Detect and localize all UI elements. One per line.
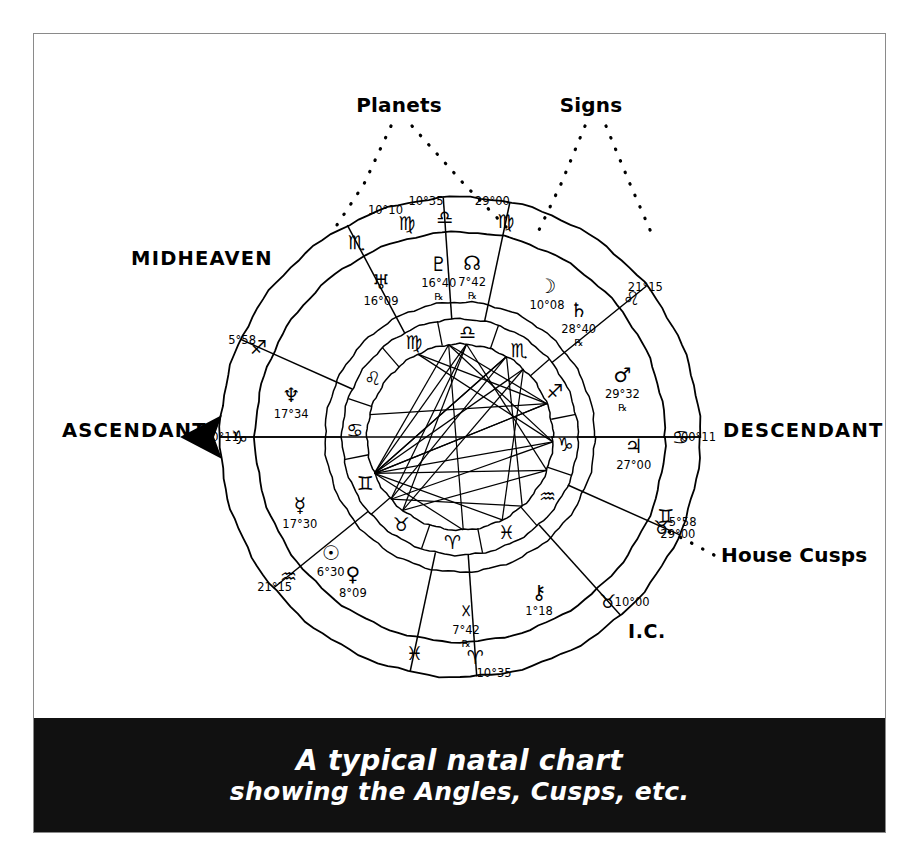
angle-label-ic: I.C. [628,620,666,642]
planet-glyph: ☊ [463,251,481,275]
planet-chiron: ⚷1°18 [525,580,553,618]
retrograde-marker: ℞ [462,638,471,649]
cusp-degree-h12: 5°58 [228,333,256,347]
cusp-sign-glyph-aries-h4: ♈ [467,646,484,668]
planet-degree: 16°40 [421,276,456,290]
planet-glyph: ♆ [282,383,300,407]
angle-label-descendant: DESCENDANT [723,419,883,442]
inner-zodiac-glyph-gemini: ♊ [357,472,374,494]
retrograde-marker: ℞ [574,337,583,348]
cusp-degree-h4: 10°35 [477,666,512,680]
planet-degree: 16°09 [363,294,398,308]
figure-panel: ♑00°11♒21°15♓♈10°35♉10°00♉29°00♋00°11♌21… [33,33,886,833]
planet-glyph: ♂ [613,363,631,387]
callout-label-house-cusps: House Cusps [721,543,867,567]
planet-glyph: ♄ [570,298,588,322]
cusp-degree-h14: 10°10 [368,203,403,217]
planet-glyph: ⚷ [532,580,547,604]
inner-zodiac-glyph-leo: ♌ [364,367,381,389]
planet-degree: 28°40 [561,322,596,336]
inner-zodiac-glyph-libra: ♎ [459,321,476,343]
retrograde-marker: ℞ [434,291,443,302]
natal-chart-svg: ♑00°11♒21°15♓♈10°35♉10°00♉29°00♋00°11♌21… [34,34,885,699]
retrograde-marker: ℞ [468,290,477,301]
planet-degree: 17°34 [274,407,309,421]
cusp-degree-h2: 21°15 [257,580,292,594]
caption-line-2: showing the Angles, Cusps, etc. [230,777,690,807]
planet-degree: 27°00 [616,458,651,472]
cusp-degree-h13: 5°58 [669,515,697,529]
planet-degree: 17°30 [282,517,317,531]
cusp-degree-h10: 10°35 [408,194,443,208]
planet-glyphs: ♇16°40℞☊7°42℞☽10°08♄28°40℞♂29°32℞♃27°00♅… [274,251,652,648]
planet-mercury: ☿17°30 [282,493,317,531]
planet-glyph: ☽ [538,274,556,298]
planet-degree: 10°08 [529,298,564,312]
cusp-sign-glyph-libra-h10: ♎ [436,206,453,228]
planet-neptune: ♆17°34 [274,383,309,421]
planet-uranus: ♅16°09 [363,270,398,308]
planet-jupiter: ♃27°00 [616,434,651,472]
caption-band: A typical natal chart showing the Angles… [34,718,885,832]
planet-degree: 6°30 [317,565,345,579]
planet-degree: 1°18 [525,604,553,618]
inner-zodiac-glyph-aquarius: ♒ [539,485,556,507]
callout-label-planets: Planets [356,93,442,117]
inner-zodiac-glyph-sagittarius: ♐ [546,380,563,402]
cusp-degree-h5: 10°00 [615,595,650,609]
planet-degree: 7°42 [452,623,480,637]
planet-glyph: ♇ [430,252,448,276]
inner-zodiac-glyph-taurus: ♉ [392,513,409,535]
angle-label-midheaven: MIDHEAVEN [131,247,273,270]
cusp-sign-glyph-virgo-h9: ♍ [497,210,514,232]
planet-degree: 8°09 [339,586,367,600]
retrograde-marker: ℞ [618,402,627,413]
inner-zodiac-glyph-pisces: ♓ [498,521,515,543]
planet-glyph: ☉ [322,541,340,565]
planet-degree: 29°32 [605,387,640,401]
planet-glyph: ♀ [346,562,361,586]
planet-moon: ☽10°08 [529,274,564,312]
callout-label-signs: Signs [560,93,623,117]
natal-chart-wheel: ♑00°11♒21°15♓♈10°35♉10°00♉29°00♋00°11♌21… [34,34,885,699]
cusp-sign-glyph-pisces-h3: ♓ [406,642,423,664]
planet-glyph: ♅ [372,270,390,294]
ascendant-axis [180,415,700,459]
cusp-degree-h8: 21°15 [628,280,663,294]
cusp-sign-glyph-scorpio-h11: ♏ [348,231,365,253]
planet-saturn: ♄28°40℞ [561,298,596,348]
caption-line-1: A typical natal chart [296,744,623,777]
planet-mars: ♂29°32℞ [605,363,640,413]
inner-zodiac-glyph-aries: ♈ [444,531,461,553]
planet-glyph: ☓ [461,599,472,623]
planet-north-node: ☊7°42℞ [458,251,486,301]
planet-glyph: ☿ [294,493,306,517]
cusp-sign-glyph-taurus-h5: ♉ [599,590,616,612]
inner-zodiac-glyph-virgo: ♍ [405,331,422,353]
angle-label-ascendant: ASCENDANT [62,419,207,442]
planet-pluto: ♇16°40℞ [421,252,456,302]
planet-sun: ☉6°30 [317,541,345,579]
planet-degree: 7°42 [458,275,486,289]
inner-zodiac-glyph-scorpio: ♏ [510,339,527,361]
